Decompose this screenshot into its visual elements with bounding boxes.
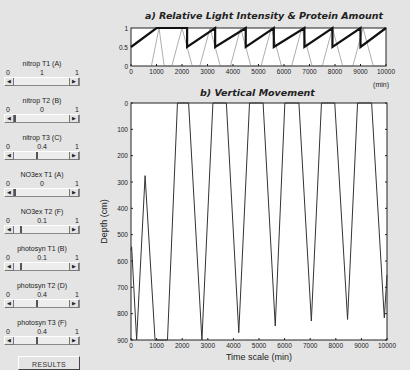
svg-text:Depth (cm): Depth (cm) <box>99 199 109 244</box>
svg-text:8000: 8000 <box>329 342 344 349</box>
svg-text:400: 400 <box>117 205 128 212</box>
svg-text:3000: 3000 <box>200 68 215 75</box>
svg-text:7000: 7000 <box>303 342 318 349</box>
svg-text:300: 300 <box>117 179 128 186</box>
svg-text:4000: 4000 <box>226 342 241 349</box>
svg-text:500: 500 <box>117 231 128 238</box>
svg-text:5000: 5000 <box>252 342 267 349</box>
svg-text:5000: 5000 <box>251 68 266 75</box>
svg-text:600: 600 <box>117 258 128 265</box>
svg-text:6000: 6000 <box>277 342 292 349</box>
svg-text:2000: 2000 <box>175 68 190 75</box>
svg-text:1: 1 <box>124 25 128 32</box>
chart-a-light-protein: 0100020003000400050006000700080009000100… <box>0 0 410 100</box>
svg-text:Time scale (min): Time scale (min) <box>226 352 292 362</box>
svg-text:0: 0 <box>129 342 133 349</box>
svg-text:2000: 2000 <box>175 342 190 349</box>
svg-text:4000: 4000 <box>226 68 241 75</box>
svg-text:1000: 1000 <box>149 342 164 349</box>
svg-text:200: 200 <box>117 152 128 159</box>
svg-text:3000: 3000 <box>201 342 216 349</box>
svg-text:10000: 10000 <box>378 342 396 349</box>
svg-text:0: 0 <box>124 100 128 107</box>
svg-text:1000: 1000 <box>149 68 164 75</box>
svg-text:(min): (min) <box>373 81 389 89</box>
svg-text:0: 0 <box>124 63 128 70</box>
svg-text:10000: 10000 <box>377 68 395 75</box>
svg-text:6000: 6000 <box>277 68 292 75</box>
svg-text:0.5: 0.5 <box>119 44 128 51</box>
svg-text:900: 900 <box>117 337 128 344</box>
svg-text:700: 700 <box>117 284 128 291</box>
svg-text:0: 0 <box>129 68 133 75</box>
svg-text:800: 800 <box>117 310 128 317</box>
chart-b-vertical-movement: 0100020003000400050006000700080009000100… <box>0 95 410 388</box>
svg-text:100: 100 <box>117 126 128 133</box>
svg-text:8000: 8000 <box>328 68 343 75</box>
svg-text:9000: 9000 <box>353 68 368 75</box>
svg-text:9000: 9000 <box>354 342 369 349</box>
svg-text:7000: 7000 <box>302 68 317 75</box>
